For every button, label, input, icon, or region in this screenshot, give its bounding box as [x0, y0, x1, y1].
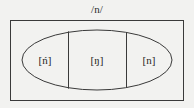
allophone-label-velar: [ŋ] — [68, 53, 126, 67]
allophone-label-palatal: [ń] — [22, 53, 68, 67]
phoneme-allophone-diagram: /n/ [ń] [ŋ] [n] — [0, 0, 194, 108]
allophone-label-alveolar: [n] — [126, 53, 172, 67]
